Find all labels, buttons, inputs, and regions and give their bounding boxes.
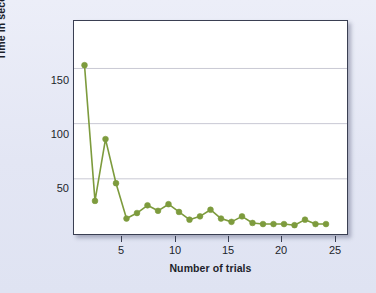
x-tick-mark-20: [281, 236, 282, 242]
x-tick-mark-15: [228, 236, 229, 242]
x-tick-mark-25: [335, 236, 336, 242]
x-tick-label-25: 25: [320, 244, 350, 256]
x-tick-label-10: 10: [160, 244, 190, 256]
chart-figure: Time in seconds 150 100 50 5 10 15 20 25…: [0, 0, 376, 293]
x-tick-label-5: 5: [106, 244, 136, 256]
x-axis-title: Number of trials: [73, 262, 348, 274]
x-tick-mark-10: [175, 236, 176, 242]
x-tick-label-15: 15: [213, 244, 243, 256]
x-axis-ticks: 5 10 15 20 25: [0, 0, 376, 293]
x-tick-mark-5: [121, 236, 122, 242]
x-tick-label-20: 20: [266, 244, 296, 256]
